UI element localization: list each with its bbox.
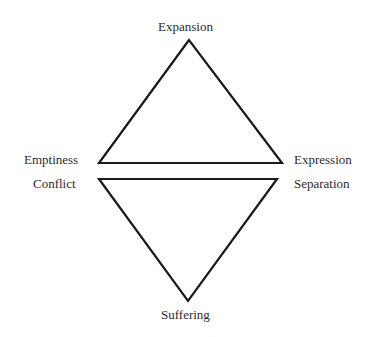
diagram-canvas: Expansion Emptiness Expression Conflict … (0, 0, 379, 337)
label-emptiness: Emptiness (24, 152, 78, 167)
label-expansion: Expansion (158, 19, 213, 34)
upper-triangle (99, 40, 282, 163)
label-expression: Expression (294, 152, 352, 167)
triangles-svg (0, 0, 379, 337)
label-separation: Separation (294, 176, 350, 191)
label-suffering: Suffering (161, 307, 210, 322)
label-conflict: Conflict (33, 176, 76, 191)
lower-triangle (99, 179, 277, 301)
